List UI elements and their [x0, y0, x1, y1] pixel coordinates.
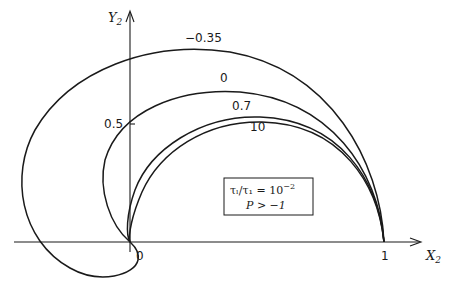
- curve-label-0: 0: [220, 71, 228, 85]
- parameter-box: τₗ/τ₁ = 10−2 P > −1: [224, 178, 313, 215]
- y-tick-label-0.5: 0.5: [104, 117, 123, 131]
- curve-minus-0.35: [22, 49, 384, 277]
- figure: Y2 X2 0 1 0.5 −0.35 0 0.7 10 τₗ/τ₁ = 10−…: [0, 0, 454, 281]
- parameter-p: P > −1: [245, 199, 286, 212]
- y-axis-label: Y2: [108, 10, 123, 27]
- curve-label-minus-0.35: −0.35: [185, 31, 222, 45]
- x-axis-label: X2: [425, 248, 441, 265]
- curve-0: [103, 92, 384, 242]
- curve-label-0.7: 0.7: [232, 99, 251, 113]
- x-tick-label-1: 1: [381, 249, 389, 263]
- curve-label-10: 10: [250, 120, 265, 134]
